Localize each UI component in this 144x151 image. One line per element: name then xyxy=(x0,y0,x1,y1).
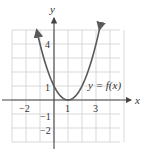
y-tick-label: −2 xyxy=(40,125,51,136)
x-axis-label: x xyxy=(134,94,140,106)
y-tick-label: −1 xyxy=(40,111,51,122)
y-tick-label: 4 xyxy=(45,39,50,50)
y-tick-label: 1 xyxy=(45,82,50,93)
x-tick-label: 3 xyxy=(93,103,98,114)
y-axis-label: y xyxy=(49,3,55,15)
curve-label: y = f(x) xyxy=(87,79,121,92)
x-tick-label: 1 xyxy=(65,103,70,114)
function-graph: y x y = f(x) −2 1 3 4 1 −1 −2 xyxy=(0,0,144,151)
x-tick-label: −2 xyxy=(19,103,30,114)
